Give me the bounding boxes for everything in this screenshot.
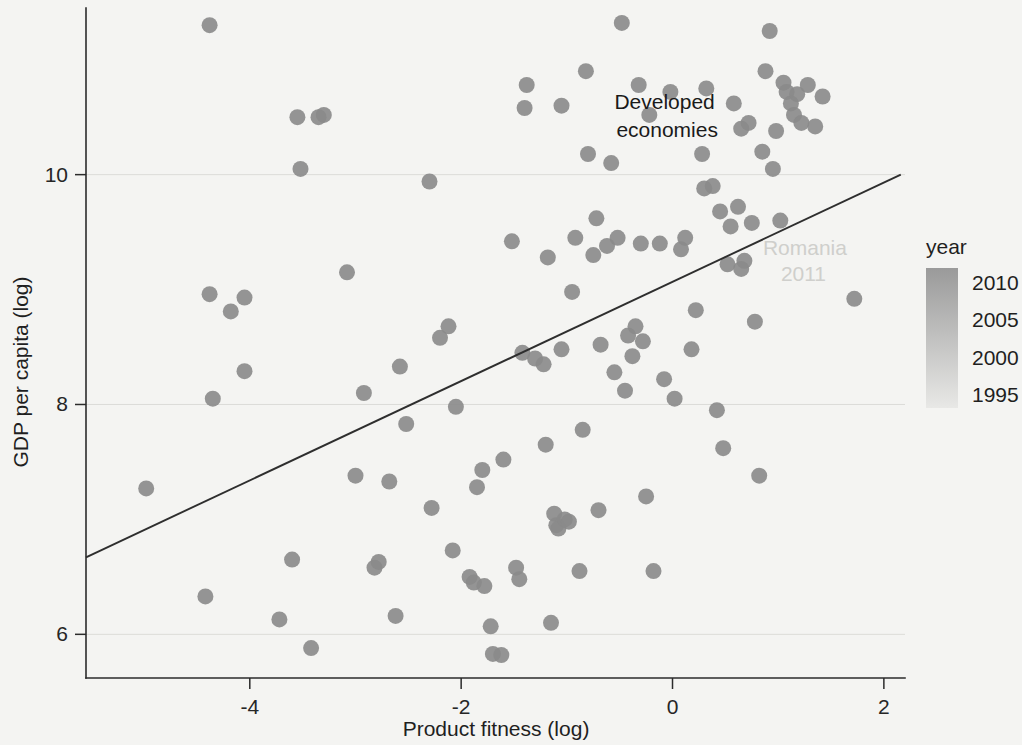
figure-background [0, 0, 1022, 745]
scatter-point [688, 302, 704, 318]
scatter-point [237, 290, 253, 306]
scatter-point [591, 502, 607, 518]
scatter-point [205, 391, 221, 407]
scatter-point [610, 230, 626, 246]
scatter-point [392, 359, 408, 375]
scatter-point [371, 554, 387, 570]
scatter-point [388, 608, 404, 624]
scatter-point [815, 89, 831, 105]
legend-label-2010[interactable]: 2010 [972, 271, 1019, 294]
scatter-point [398, 416, 414, 432]
scatter-point [624, 348, 640, 364]
scatter-point [561, 514, 577, 530]
scatter-point [441, 318, 457, 334]
scatter-point [554, 98, 570, 114]
scatter-point [758, 63, 774, 79]
scatter-point [614, 15, 630, 31]
legend-colorbar[interactable] [926, 268, 958, 408]
scatter-point [289, 109, 305, 125]
legend-label-2000[interactable]: 2000 [972, 346, 1019, 369]
scatter-point [751, 468, 767, 484]
legend-label-1995[interactable]: 1995 [972, 383, 1019, 406]
scatter-point [422, 174, 438, 190]
scatter-point [572, 563, 588, 579]
scatter-point [197, 588, 213, 604]
scatter-point [677, 230, 693, 246]
scatter-point [575, 422, 591, 438]
scatter-point [303, 640, 319, 656]
scatter-point [519, 77, 535, 93]
scatter-point [511, 571, 527, 587]
scatter-point [765, 161, 781, 177]
scatter-point [694, 146, 710, 162]
scatter-point [667, 391, 683, 407]
scatter-point [536, 356, 552, 372]
y-tick-label: 6 [56, 622, 68, 645]
legend-title: year [926, 235, 967, 258]
scatter-point [202, 17, 218, 33]
scatter-point [747, 314, 763, 330]
x-tick-label: 2 [878, 695, 890, 718]
annotation-developed-economies-line1: Developed [614, 90, 714, 113]
scatter-point [554, 341, 570, 357]
scatter-point [493, 647, 509, 663]
scatter-point [633, 236, 649, 252]
scatter-point [543, 615, 559, 631]
scatter-point [223, 303, 239, 319]
scatter-point [726, 95, 742, 111]
scatter-point [585, 247, 601, 263]
scatter-point [762, 23, 778, 39]
y-tick-label: 10 [45, 163, 68, 186]
scatter-point [483, 618, 499, 634]
scatter-point [284, 552, 300, 568]
scatter-point [202, 286, 218, 302]
scatter-point [793, 115, 809, 131]
scatter-point [424, 500, 440, 516]
scatter-point [476, 578, 492, 594]
annotation-developed-economies-line2: economies [616, 118, 718, 141]
scatter-point [733, 121, 749, 137]
x-tick-label: -4 [240, 695, 259, 718]
scatter-point [768, 123, 784, 139]
scatter-point [469, 479, 485, 495]
scatter-point [646, 563, 662, 579]
scatter-point [772, 213, 788, 229]
scatter-point [504, 233, 520, 249]
scatter-point [588, 210, 604, 226]
legend-label-2005[interactable]: 2005 [972, 308, 1019, 331]
scatter-point [744, 215, 760, 231]
scatter-point [712, 203, 728, 219]
scatter-point [656, 371, 672, 387]
scatter-point [580, 146, 596, 162]
scatter-point [603, 155, 619, 171]
scatter-point [540, 249, 556, 265]
scatter-point [593, 337, 609, 353]
scatter-point [617, 383, 633, 399]
y-tick-label: 8 [56, 392, 68, 415]
annotation-romania-line2: 2011 [781, 262, 826, 285]
scatter-point [517, 100, 533, 116]
scatter-point [846, 291, 862, 307]
scatter-point [807, 118, 823, 134]
x-tick-label: -2 [452, 695, 471, 718]
scatter-point [564, 284, 580, 300]
scatter-point [311, 109, 327, 125]
scatter-point [293, 161, 309, 177]
scatter-point [339, 264, 355, 280]
scatter-point [237, 363, 253, 379]
scatter-point [356, 385, 372, 401]
scatter-point [381, 474, 397, 490]
scatter-point [138, 480, 154, 496]
scatter-point [754, 144, 770, 160]
scatter-chart-figure: -4-202 6810 Developed economies Romania … [0, 0, 1022, 745]
y-axis-title: GDP per capita (log) [9, 276, 32, 467]
scatter-point [723, 218, 739, 234]
scatter-point [730, 199, 746, 215]
scatter-point [445, 542, 461, 558]
x-tick-label: 0 [667, 695, 679, 718]
scatter-point [800, 77, 816, 93]
scatter-point [696, 180, 712, 196]
scatter-point [567, 230, 583, 246]
scatter-point [578, 63, 594, 79]
scatter-point [638, 488, 654, 504]
